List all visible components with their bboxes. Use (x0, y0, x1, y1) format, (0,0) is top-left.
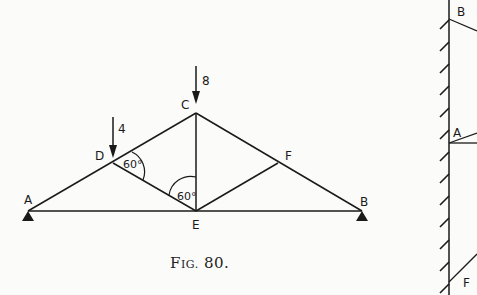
support-b-icon (356, 211, 368, 221)
force-line-b (449, 19, 477, 31)
node-label-f: F (285, 149, 292, 163)
load-arrow-d (109, 117, 117, 158)
node-label-b: B (360, 195, 368, 209)
force-label-b: B (457, 5, 465, 19)
force-diagram: B A F (440, 0, 477, 295)
support-a-icon (22, 211, 34, 221)
figure-caption: FIG. 80. (170, 254, 229, 272)
load-label-c: 8 (202, 74, 210, 88)
wall-hatching (440, 20, 449, 293)
load-arrow-c (192, 66, 200, 104)
load-label-d: 4 (118, 122, 126, 136)
force-label-a: A (453, 126, 462, 140)
node-label-d: D (95, 149, 104, 163)
angle-label-d: 60° (123, 158, 143, 171)
force-label-f: F (463, 276, 470, 290)
node-label-c: C (181, 98, 189, 112)
member-e-f (196, 163, 278, 211)
node-label-e: E (192, 218, 200, 232)
node-label-a: A (24, 193, 33, 207)
truss-diagram: 60° 60° 4 8 A B C D E F FIG. 80. (0, 0, 477, 295)
angle-label-e: 60° (177, 190, 197, 203)
